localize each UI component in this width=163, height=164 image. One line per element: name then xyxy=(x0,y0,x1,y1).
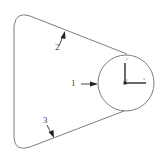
label-2: 2 xyxy=(55,43,60,52)
diagram-canvas xyxy=(0,0,163,164)
label-3: 3 xyxy=(43,116,48,125)
axis-label-vertical: y xyxy=(126,56,128,61)
axis-label-origin: z xyxy=(126,77,128,82)
axis-label-horizontal: x xyxy=(143,76,145,81)
leader-2-arrowhead-icon xyxy=(61,31,66,39)
leader-3-arrowhead-icon xyxy=(49,130,55,138)
label-1: 1 xyxy=(71,79,76,88)
leader-1-arrowhead-icon xyxy=(90,82,98,87)
